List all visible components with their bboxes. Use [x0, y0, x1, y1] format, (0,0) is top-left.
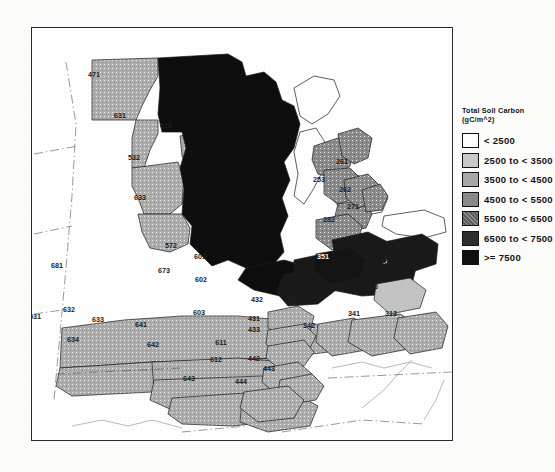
legend-title-line1: Total Soil Carbon: [462, 106, 554, 115]
region-label: 632: [63, 305, 75, 314]
region-label: 611: [215, 338, 227, 347]
region-label: 443: [263, 364, 275, 373]
region-label: 351: [317, 252, 329, 261]
region-label: 431: [248, 314, 260, 323]
region-label: 681: [51, 261, 63, 270]
legend-entry: 5500 to < 6500: [462, 209, 554, 229]
map-frame: 4716314265326336815315726016736026326336…: [31, 27, 453, 441]
region-label: 642: [147, 340, 159, 349]
legend-swatch: [462, 192, 479, 207]
region-label: 532: [128, 153, 140, 162]
map-canvas: 4716314265326336815315726016736026326336…: [32, 28, 452, 440]
region-label: 643: [183, 374, 195, 383]
legend-entry: >= 7500: [462, 248, 554, 268]
region-label: 572: [165, 241, 177, 250]
region-label: 253: [287, 296, 299, 305]
legend-entry-list: < 25002500 to < 35003500 to < 45004500 t…: [462, 131, 554, 268]
legend-title: Total Soil Carbon (gC/m^2): [462, 106, 554, 124]
legend-swatch: [462, 250, 479, 265]
legend-label: 4500 to < 5500: [484, 194, 553, 205]
region-label: 432: [251, 295, 263, 304]
legend-entry: 6500 to < 7500: [462, 229, 554, 249]
region-label: 601: [194, 252, 206, 261]
region-label: 442: [248, 354, 260, 363]
legend-label: 6500 to < 7500: [484, 233, 553, 244]
legend-label: < 2500: [484, 135, 515, 146]
region-label: 602: [195, 275, 207, 284]
region-label: 341: [348, 309, 360, 318]
region-label: 641: [135, 320, 147, 329]
region-label: 444: [235, 377, 247, 386]
legend-swatch: [462, 172, 479, 187]
legend-label: 5500 to < 6500: [484, 213, 553, 224]
legend-swatch: [462, 211, 479, 226]
legend-title-line2: (gC/m^2): [462, 115, 554, 124]
map-legend: Total Soil Carbon (gC/m^2) < 25002500 to…: [462, 106, 554, 268]
region-label: 271: [347, 202, 359, 211]
region-label: 313: [385, 309, 397, 318]
legend-label: 3500 to < 4500: [484, 174, 553, 185]
legend-label: 2500 to < 3500: [484, 155, 553, 166]
region-label: 282: [323, 215, 335, 224]
region-label: 323: [366, 282, 378, 291]
region-label: 253: [313, 175, 325, 184]
legend-label: >= 7500: [484, 252, 521, 263]
legend-entry: 3500 to < 4500: [462, 170, 554, 190]
region-label: 603: [193, 308, 205, 317]
region-label: 612: [210, 355, 222, 364]
region-label: 631: [114, 111, 126, 120]
region-label: 261: [336, 157, 348, 166]
region-label: 633: [134, 193, 146, 202]
region-label: 673: [158, 266, 170, 275]
region-label: 426: [160, 121, 172, 130]
region-label: 531: [32, 312, 41, 321]
region-label: 342: [303, 321, 315, 330]
region-label: 471: [88, 70, 100, 79]
soil-carbon-figure: 4716314265326336815315726016736026326336…: [0, 0, 555, 472]
legend-swatch: [462, 231, 479, 246]
region-label: 433: [248, 325, 260, 334]
region-label: 633: [92, 315, 104, 324]
legend-entry: 4500 to < 5500: [462, 190, 554, 210]
legend-entry: < 2500: [462, 131, 554, 151]
legend-swatch: [462, 153, 479, 168]
region-label: 262: [339, 185, 351, 194]
legend-entry: 2500 to < 3500: [462, 151, 554, 171]
region-label: 634: [67, 335, 79, 344]
legend-swatch: [462, 133, 479, 148]
